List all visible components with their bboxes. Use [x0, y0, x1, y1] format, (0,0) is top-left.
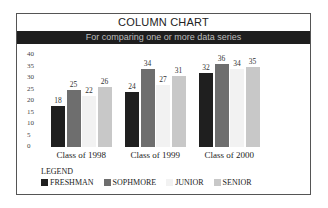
data-label: 35: [245, 57, 261, 66]
bar-junior-1: [156, 85, 170, 147]
category-label: Class of 1999: [120, 150, 190, 160]
legend-swatch-icon: [166, 179, 173, 186]
bar-sophmore-2: [215, 64, 229, 147]
legend: FRESHMANSOPHMOREJUNIORSENIOR: [41, 178, 262, 187]
data-label: 32: [198, 63, 214, 72]
bar-freshman-1: [125, 92, 139, 147]
bar-sophmore-1: [141, 69, 155, 147]
legend-label: SOPHMORE: [113, 178, 157, 187]
chart-subtitle: For comparing one or more data series: [17, 31, 310, 44]
data-label: 24: [124, 82, 140, 91]
data-label: 25: [66, 80, 82, 89]
bar-senior-0: [98, 87, 112, 147]
y-tick-label: 10: [27, 119, 41, 127]
y-tick-label: 40: [27, 50, 41, 58]
y-tick-label: 20: [27, 96, 41, 104]
bar-senior-2: [246, 67, 260, 148]
y-tick-label: 5: [27, 131, 41, 139]
legend-item-sophmore: SOPHMORE: [104, 178, 157, 187]
subtitle-band: For comparing one or more data series: [17, 31, 310, 44]
y-tick-label: 30: [27, 73, 41, 81]
chart-title: COLUMN CHART: [17, 16, 310, 28]
category-label: Class of 2000: [194, 150, 264, 160]
legend-swatch-icon: [104, 179, 111, 186]
y-tick-label: 35: [27, 62, 41, 70]
data-label: 22: [81, 86, 97, 95]
bar-senior-1: [172, 76, 186, 147]
chart-frame: COLUMN CHART For comparing one or more d…: [16, 13, 311, 195]
legend-swatch-icon: [41, 179, 48, 186]
legend-label: FRESHMAN: [50, 178, 94, 187]
legend-swatch-icon: [214, 179, 221, 186]
data-label: 36: [214, 54, 230, 63]
data-label: 34: [140, 59, 156, 68]
data-label: 27: [155, 75, 171, 84]
y-tick-label: 15: [27, 108, 41, 116]
bar-junior-0: [82, 96, 96, 147]
y-tick-label: 0: [27, 142, 41, 150]
bar-freshman-2: [199, 73, 213, 147]
data-label: 18: [50, 96, 66, 105]
legend-item-freshman: FRESHMAN: [41, 178, 94, 187]
legend-label: SENIOR: [223, 178, 252, 187]
data-label: 26: [97, 77, 113, 86]
legend-item-senior: SENIOR: [214, 178, 252, 187]
data-label: 31: [171, 66, 187, 75]
bar-sophmore-0: [67, 90, 81, 148]
data-label: 34: [229, 59, 245, 68]
y-tick-label: 25: [27, 85, 41, 93]
category-label: Class of 1998: [46, 150, 116, 160]
bar-junior-2: [230, 69, 244, 147]
legend-item-junior: JUNIOR: [166, 178, 203, 187]
legend-label: JUNIOR: [175, 178, 203, 187]
legend-title: LEGEND: [41, 167, 73, 176]
bar-freshman-0: [51, 106, 65, 147]
